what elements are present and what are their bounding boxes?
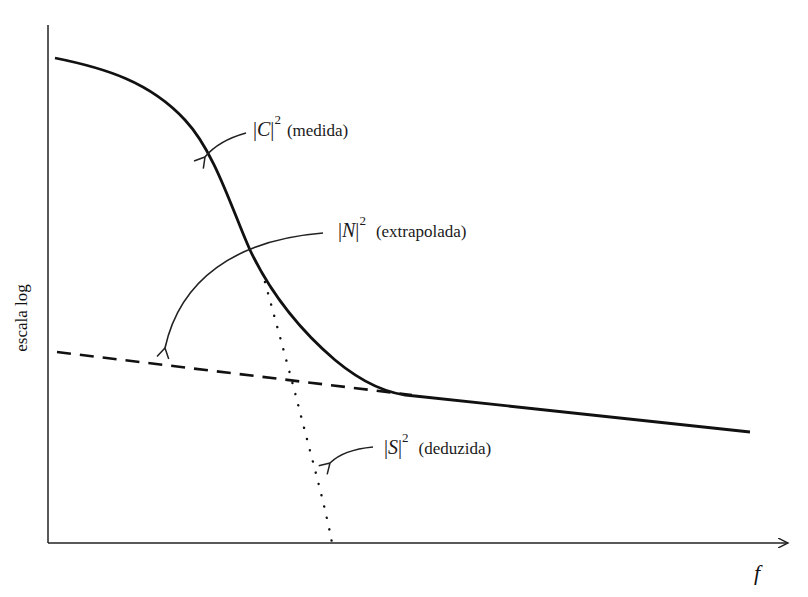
- measured-annotation-arrow: [205, 133, 246, 157]
- measured-desc: (medida): [287, 121, 348, 140]
- signal-desc: (deduzida): [419, 439, 492, 458]
- exponent: 2: [402, 430, 409, 445]
- measured-curve: [55, 58, 750, 432]
- exponent: 2: [359, 213, 366, 228]
- spectrum-diagram: [0, 0, 808, 597]
- noise-label: |N|2(extrapolada): [338, 220, 467, 240]
- measured-symbol: C: [257, 118, 270, 140]
- x-axis-label: f: [754, 560, 760, 586]
- y-axis-label: escala log: [12, 284, 32, 352]
- signal-label: |S|2(deduzida): [384, 437, 491, 457]
- noise-symbol: N: [342, 219, 355, 241]
- signal-annotation-arrow: [330, 447, 373, 463]
- noise-extrapolated-curve: [57, 352, 412, 395]
- measured-label: |C|2(medida): [253, 119, 348, 139]
- noise-desc: (extrapolada): [376, 222, 467, 241]
- exponent: 2: [274, 112, 281, 127]
- signal-deduced-curve: [265, 282, 332, 543]
- signal-symbol: S: [388, 436, 398, 458]
- noise-annotation-arrow: [165, 233, 323, 348]
